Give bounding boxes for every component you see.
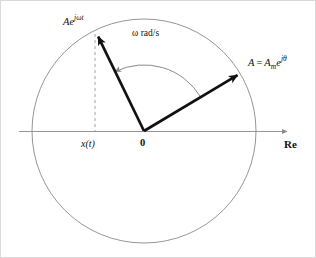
label-rotating-phasor: Aejωt	[63, 14, 84, 27]
label-real-axis: Re	[284, 139, 297, 150]
label-origin: 0	[140, 138, 145, 149]
projection-arg: (t)	[85, 138, 94, 149]
phasor-diagram-canvas	[1, 1, 316, 258]
phasor-diagram-figure: Aejωt A=Amejθ ω rad/s x(t) 0 Re	[0, 0, 316, 258]
static-phasor-equals: =	[256, 57, 262, 68]
static-phasor-exponent-theta: θ	[283, 54, 287, 63]
static-phasor-lhs: A	[248, 57, 254, 68]
rotation-arc	[115, 65, 201, 97]
label-angular-velocity: ω rad/s	[132, 29, 159, 39]
label-static-phasor: A=Amejθ	[248, 55, 287, 70]
rotating-phasor-exponent-t: t	[82, 13, 84, 22]
rotating-phasor-base: Ae	[63, 16, 74, 27]
rotating-phasor-vector	[98, 37, 144, 131]
label-projection: x(t)	[81, 139, 95, 149]
